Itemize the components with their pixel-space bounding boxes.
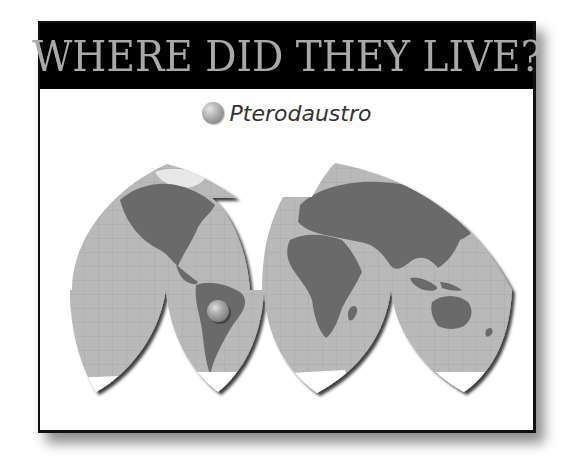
graticule <box>60 150 520 400</box>
map-lobes <box>60 150 520 400</box>
antarctica-3 <box>290 370 346 396</box>
antarctica-2 <box>195 372 241 395</box>
sphere-marker-icon <box>207 300 229 322</box>
australia <box>431 296 471 329</box>
world-map <box>0 0 570 465</box>
antarctica-4 <box>430 372 491 395</box>
antarctica-1 <box>70 376 122 395</box>
